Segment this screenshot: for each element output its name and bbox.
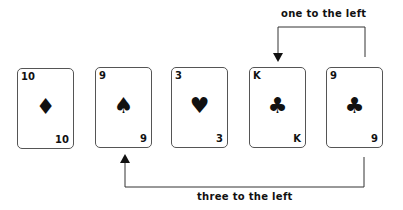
arrow-one-to-the-left: [278, 27, 365, 57]
club-icon: ♣: [250, 95, 305, 117]
card-rank-top: K: [253, 70, 261, 81]
club-icon: ♣: [327, 95, 382, 117]
card-rank-bottom: 9: [140, 133, 147, 144]
card-9-spades: 9 ♠ 9: [95, 67, 152, 148]
card-9-clubs: 9 ♣ 9: [326, 67, 383, 148]
card-3-hearts: 3 ♥ 3: [171, 67, 228, 148]
card-rank-top: 9: [99, 70, 106, 81]
heart-icon: ♥: [172, 95, 227, 117]
arrowhead-up-icon: [120, 154, 130, 163]
card-rank-top: 9: [330, 70, 337, 81]
card-rank-top: 3: [175, 70, 182, 81]
arrowhead-down-icon: [273, 53, 283, 62]
card-rank-top: 10: [21, 71, 35, 82]
spade-icon: ♠: [96, 95, 151, 117]
card-rank-bottom: 3: [216, 133, 223, 144]
diamond-icon: ♦: [18, 96, 73, 118]
arrow-three-to-the-left: [125, 157, 364, 187]
label-three-to-the-left: three to the left: [197, 191, 293, 202]
label-one-to-the-left: one to the left: [281, 8, 366, 19]
card-rank-bottom: 9: [371, 133, 378, 144]
card-rank-bottom: K: [293, 133, 301, 144]
card-rank-bottom: 10: [55, 134, 69, 145]
card-king-clubs: K ♣ K: [249, 67, 306, 148]
card-10-diamonds: 10 ♦ 10: [17, 68, 74, 149]
